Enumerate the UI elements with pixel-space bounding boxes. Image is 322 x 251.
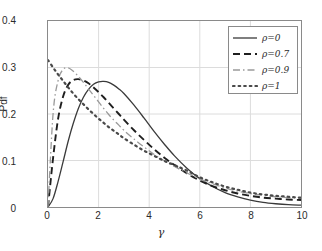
x-tick-label: 6: [185, 210, 215, 221]
legend-line-sample: [232, 33, 258, 43]
legend-line-sample: [232, 49, 258, 59]
legend-item-3: ρ=1: [232, 78, 295, 94]
legend-item-0: ρ=0: [232, 30, 295, 46]
y-tick-label: 0.1: [0, 156, 16, 167]
y-tick-label: 0.3: [0, 62, 16, 73]
legend-item-label: ρ=0: [262, 33, 281, 43]
y-tick-label: 0.4: [0, 15, 16, 26]
chart-figure: Pdf 00.10.20.30.4 0246810 γ ρ=0ρ=0.7ρ=0.…: [0, 0, 322, 251]
y-tick-label: 0.2: [0, 109, 16, 120]
curve-series-0: [48, 81, 301, 207]
legend-line-sample: [232, 65, 258, 75]
x-tick-label: 8: [236, 210, 266, 221]
y-tick-label: 0: [0, 203, 16, 214]
legend-item-1: ρ=0.7: [232, 46, 295, 62]
x-axis-label: γ: [0, 226, 322, 239]
legend-item-label: ρ=1: [262, 81, 281, 91]
x-tick-label: 10: [287, 210, 317, 221]
x-tick-label: 2: [83, 210, 113, 221]
x-tick-label: 0: [32, 210, 62, 221]
x-tick-label: 4: [134, 210, 164, 221]
legend-item-2: ρ=0.9: [232, 62, 295, 78]
legend-item-label: ρ=0.7: [262, 49, 289, 59]
legend-box: ρ=0ρ=0.7ρ=0.9ρ=1: [228, 26, 298, 94]
legend-item-label: ρ=0.9: [262, 65, 289, 75]
legend-line-sample: [232, 81, 258, 91]
x-axis-label-text: γ: [158, 226, 165, 239]
curve-series-1: [48, 79, 301, 207]
